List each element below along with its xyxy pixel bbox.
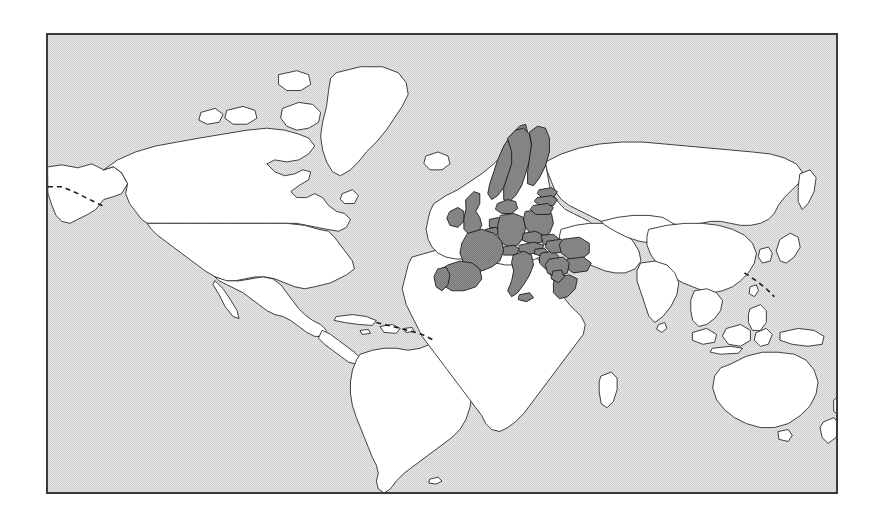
country-australia xyxy=(713,352,818,427)
island-newfoundland xyxy=(341,190,359,204)
country-korea xyxy=(758,247,772,263)
island-madagascar xyxy=(599,372,617,408)
island-falklands xyxy=(429,477,442,484)
country-russia xyxy=(545,142,802,225)
region-southeast-asia xyxy=(691,289,723,327)
island-cuba xyxy=(335,315,377,326)
map-frame xyxy=(46,33,838,494)
island-baffin xyxy=(281,102,321,130)
island-sri-lanka xyxy=(657,322,667,332)
country-india xyxy=(637,261,679,322)
highlight-lithuania xyxy=(531,204,554,215)
country-canada xyxy=(104,128,351,231)
island-sulawesi xyxy=(754,328,772,346)
world-map-svg xyxy=(48,35,836,492)
highlight-romania xyxy=(559,237,589,259)
island-java xyxy=(711,346,743,354)
peninsula-kamchatka xyxy=(798,170,816,210)
island-tasmania xyxy=(778,430,792,442)
boundary-ryukyu-arc xyxy=(744,273,774,297)
island-ellesmere xyxy=(279,71,311,91)
country-new-zealand xyxy=(834,394,836,416)
country-new-zealand-south xyxy=(820,418,836,444)
island-new-guinea xyxy=(780,328,824,346)
country-greenland xyxy=(321,67,409,176)
island-banks xyxy=(199,108,223,124)
country-alaska xyxy=(48,164,128,223)
country-japan xyxy=(776,233,800,263)
island-hispaniola xyxy=(380,324,400,333)
island-borneo xyxy=(723,324,751,346)
island-taiwan xyxy=(749,285,758,297)
region-central-america xyxy=(319,330,361,364)
island-sumatra xyxy=(693,328,717,344)
island-jamaica xyxy=(360,329,370,334)
country-iceland xyxy=(424,152,450,170)
island-victoria xyxy=(225,106,257,124)
country-philippines xyxy=(748,305,766,331)
world-map-figure: Equirectangular world map; European coun… xyxy=(0,0,884,518)
